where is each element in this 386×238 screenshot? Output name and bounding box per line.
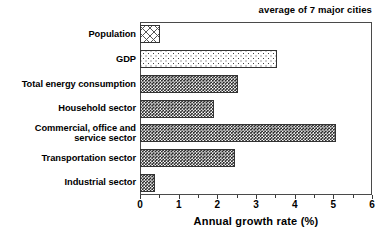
chart-caption: average of 7 major cities (259, 4, 372, 15)
xtick-label-4: 4 (292, 199, 298, 210)
category-label-industrial: Industrial sector (0, 177, 136, 188)
x-axis-tick-labels: 0 1 2 3 4 5 6 (140, 199, 372, 213)
category-label-household: Household sector (0, 103, 136, 114)
xtick-label-2: 2 (215, 199, 221, 210)
bar-industrial (140, 174, 155, 192)
xtick-label-0: 0 (137, 199, 143, 210)
xtick-label-3: 3 (253, 199, 259, 210)
category-axis-labels: Population GDP Total energy consumption … (0, 22, 136, 195)
category-label-total-energy: Total energy consumption (0, 79, 136, 90)
x-tick-minor (237, 195, 238, 198)
xtick-label-6: 6 (369, 199, 375, 210)
bar-commercial (140, 124, 336, 142)
xtick-label-1: 1 (176, 199, 182, 210)
bar-transportation (140, 149, 235, 167)
bar-chart-figure: average of 7 major cities Population GDP… (0, 0, 386, 238)
bar-household (140, 100, 214, 118)
x-tick-minor (353, 195, 354, 198)
category-label-commercial-1: Commercial, office and (0, 123, 136, 134)
category-label-population: Population (0, 29, 136, 40)
x-tick-minor (314, 195, 315, 198)
xtick-label-5: 5 (331, 199, 337, 210)
category-label-commercial-2: service sector (0, 133, 136, 144)
x-tick-minor (275, 195, 276, 198)
bars-layer (140, 22, 372, 195)
x-tick-minor (159, 195, 160, 198)
x-axis-title: Annual growth rate (%) (140, 215, 372, 227)
category-label-gdp: GDP (0, 54, 136, 65)
bar-total-energy (140, 75, 238, 93)
category-label-transportation: Transportation sector (0, 153, 136, 164)
bar-population (140, 25, 160, 43)
x-tick-minor (198, 195, 199, 198)
bar-gdp (140, 50, 277, 68)
